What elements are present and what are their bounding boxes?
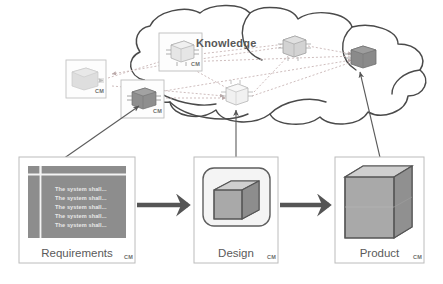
diagram-canvas: Knowledge CM CM CM The system shall... T…	[0, 0, 443, 284]
cm-tag-node-left-light: CM	[95, 88, 104, 94]
knowledge-label: Knowledge	[196, 37, 256, 49]
product-cube-icon	[345, 166, 412, 238]
cm-tag-node-mid-dark: CM	[153, 108, 162, 114]
requirement-row: The system shall...	[55, 204, 107, 210]
panel-label-product: Product	[335, 247, 424, 259]
cm-tag-requirements: CM	[124, 254, 133, 260]
panel-label-requirements: Requirements	[19, 247, 135, 259]
cm-tag-node-top-light: CM	[191, 61, 200, 67]
requirement-row: The system shall...	[55, 222, 107, 228]
requirement-row: The system shall...	[55, 186, 107, 192]
design-cube-icon	[214, 181, 259, 219]
requirement-row: The system shall...	[55, 213, 107, 219]
cm-tag-product: CM	[413, 254, 422, 260]
panel-label-design: Design	[194, 247, 278, 259]
cm-tag-design: CM	[267, 254, 276, 260]
requirement-row: The system shall...	[55, 195, 107, 201]
